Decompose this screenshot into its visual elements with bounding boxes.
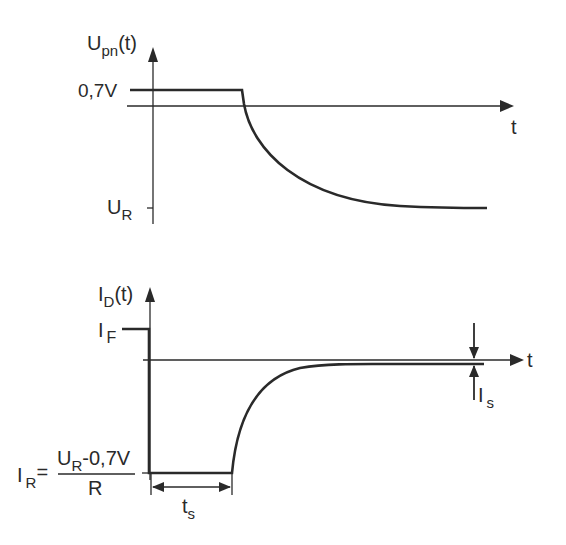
current-y-axis-label: ID(t) — [98, 283, 133, 310]
voltage-waveform — [130, 90, 487, 208]
voltage-y-axis-arrow-icon — [148, 47, 158, 62]
reverse-current-label: IR= — [17, 461, 48, 491]
voltage-y-axis-label: Upn(t) — [87, 32, 137, 59]
formula-numerator: UR-0,7V — [57, 447, 131, 474]
current-plot: ID(t) IF t Is IR= UR-0,7V R ts — [17, 283, 533, 522]
current-x-axis-arrow-icon — [510, 354, 524, 366]
formula-denominator: R — [88, 477, 102, 499]
saturation-current-label: Is — [478, 384, 494, 411]
current-waveform — [122, 329, 484, 473]
current-y-axis-arrow-icon — [145, 287, 155, 302]
voltage-plot: Upn(t) 0,7V t UR — [78, 32, 517, 224]
level-low-label: UR — [107, 196, 132, 223]
forward-current-label: IF — [98, 319, 117, 346]
diode-switching-diagram: Upn(t) 0,7V t UR ID(t) IF t — [0, 0, 566, 545]
level-high-label: 0,7V — [78, 80, 117, 101]
current-x-axis-label: t — [527, 349, 533, 371]
voltage-x-axis-label: t — [511, 116, 517, 138]
storage-time-label: ts — [182, 495, 195, 522]
voltage-x-axis-arrow-icon — [500, 100, 514, 112]
